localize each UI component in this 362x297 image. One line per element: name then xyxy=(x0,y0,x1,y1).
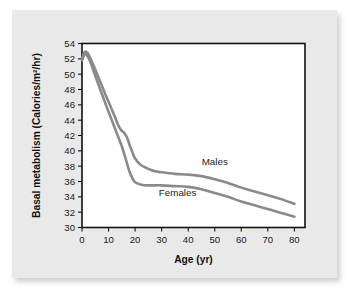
y-tick-label: 46 xyxy=(64,99,75,110)
y-tick-label: 36 xyxy=(64,176,75,187)
y-tick-label: 54 xyxy=(64,38,75,49)
y-tick-label: 30 xyxy=(64,222,75,233)
y-axis-title: Basal metabolism (Calories/m²/hr) xyxy=(31,53,42,218)
x-axis-tick-labels: 01020304050607080 xyxy=(79,234,299,245)
x-tick-label: 80 xyxy=(289,234,300,245)
x-tick-label: 40 xyxy=(183,234,194,245)
x-tick-label: 30 xyxy=(156,234,167,245)
y-tick-label: 32 xyxy=(64,207,75,218)
y-tick-label: 48 xyxy=(64,84,75,95)
basal-metabolism-line-chart: 30323436384042444648505254 0102030405060… xyxy=(0,0,362,297)
chart-canvas: 30323436384042444648505254 0102030405060… xyxy=(0,0,362,297)
y-axis-tick-labels: 30323436384042444648505254 xyxy=(64,38,75,233)
x-tick-label: 70 xyxy=(262,234,273,245)
series-label-females: Females xyxy=(159,187,197,198)
y-tick-label: 38 xyxy=(64,161,75,172)
x-axis-title: Age (yr) xyxy=(174,254,213,265)
figure-container: 30323436384042444648505254 0102030405060… xyxy=(0,0,362,297)
x-tick-label: 60 xyxy=(236,234,247,245)
y-tick-label: 40 xyxy=(64,145,75,156)
plot-area-background xyxy=(82,44,305,228)
x-tick-label: 10 xyxy=(103,234,114,245)
y-tick-label: 34 xyxy=(64,191,75,202)
series-label-males: Males xyxy=(202,156,228,167)
y-tick-label: 50 xyxy=(64,69,75,80)
y-tick-label: 42 xyxy=(64,130,75,141)
x-tick-label: 50 xyxy=(209,234,220,245)
y-tick-label: 44 xyxy=(64,115,75,126)
x-tick-label: 0 xyxy=(79,234,84,245)
y-tick-label: 52 xyxy=(64,53,75,64)
x-tick-label: 20 xyxy=(130,234,141,245)
